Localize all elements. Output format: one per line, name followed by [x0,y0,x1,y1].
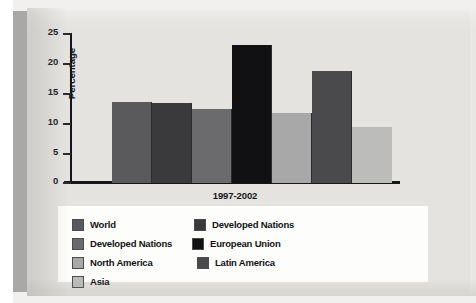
y-tick-label-5: 5 [53,146,58,157]
legend-label: Developed Nations [212,219,294,230]
y-tick-20: 20 [63,63,71,65]
legend-swatch [197,257,209,269]
legend-item: European Union [192,234,314,253]
bar [232,45,272,183]
legend-label: Asia [90,276,109,287]
legend-label: Developed Nations [90,238,172,249]
x-axis-label: 1997-2002 [70,190,400,201]
legend-label: North America [90,257,153,268]
bar [312,71,352,183]
y-tick-10: 10 [63,123,71,125]
y-tick-label-25: 25 [48,26,58,37]
chart-legend: WorldDeveloped NationsDeveloped NationsE… [58,206,428,282]
legend-item: Latin America [197,253,317,272]
page-edge-left [0,0,13,303]
bar [272,113,312,183]
y-tick-15: 15 [63,93,71,95]
legend-grid: WorldDeveloped NationsDeveloped NationsE… [72,215,428,291]
legend-item: North America [72,253,197,272]
legend-swatch [72,219,84,231]
y-tick-5: 5 [63,153,71,155]
bar [112,102,152,183]
page-gutter-shadow [13,11,27,292]
legend-item: Developed Nations [72,234,192,253]
legend-label: European Union [210,238,281,249]
y-axis-line [70,33,72,183]
legend-item: World [72,215,194,234]
y-tick-label-20: 20 [48,56,58,67]
chart-screenshot: Percentage 25 20 15 10 5 0 1997-2002 Wor… [0,0,476,303]
legend-swatch [72,276,84,288]
legend-item: Asia [72,272,194,291]
bar-series [112,33,392,183]
bar [352,127,392,183]
legend-swatch [72,238,84,250]
legend-label: World [90,219,116,230]
legend-item: Developed Nations [194,215,319,234]
legend-swatch [192,238,204,250]
legend-label: Latin America [215,257,275,268]
legend-swatch [72,257,84,269]
y-tick-label-10: 10 [48,116,58,127]
y-tick-0: 0 [63,182,71,184]
legend-swatch [194,219,206,231]
y-tick-label-15: 15 [48,86,58,97]
y-tick-25: 25 [63,33,71,35]
y-tick-label-0: 0 [53,175,58,186]
bar [192,109,232,183]
bar [152,103,192,183]
plot-area: Percentage 25 20 15 10 5 0 1997-2002 [70,30,400,185]
